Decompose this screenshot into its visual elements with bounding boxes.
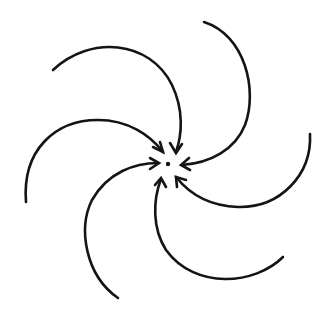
spiral-arrow-6 bbox=[26, 120, 163, 202]
spiral-arrow-1 bbox=[53, 47, 181, 152]
spiral-arrow-2 bbox=[182, 22, 250, 165]
vortex-diagram bbox=[0, 0, 328, 313]
center-point bbox=[166, 162, 170, 166]
spiral-arrow-4 bbox=[155, 179, 283, 279]
spiral-arrow-5 bbox=[85, 163, 158, 298]
arrows-group bbox=[26, 22, 310, 298]
spiral-arrow-3 bbox=[176, 134, 310, 207]
